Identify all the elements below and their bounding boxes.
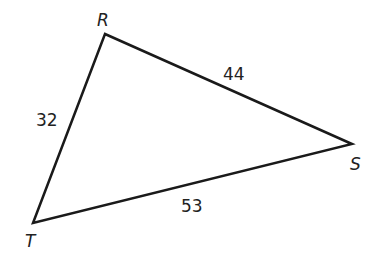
side-label-ts: 53 (181, 196, 203, 216)
vertex-label-t: T (25, 231, 37, 251)
triangle-rst (33, 34, 352, 223)
triangle-diagram: R S T 32 44 53 (0, 0, 386, 268)
vertex-label-s: S (350, 154, 361, 174)
side-label-rs: 44 (223, 64, 245, 84)
side-label-rt: 32 (36, 110, 58, 130)
vertex-label-r: R (97, 10, 109, 30)
